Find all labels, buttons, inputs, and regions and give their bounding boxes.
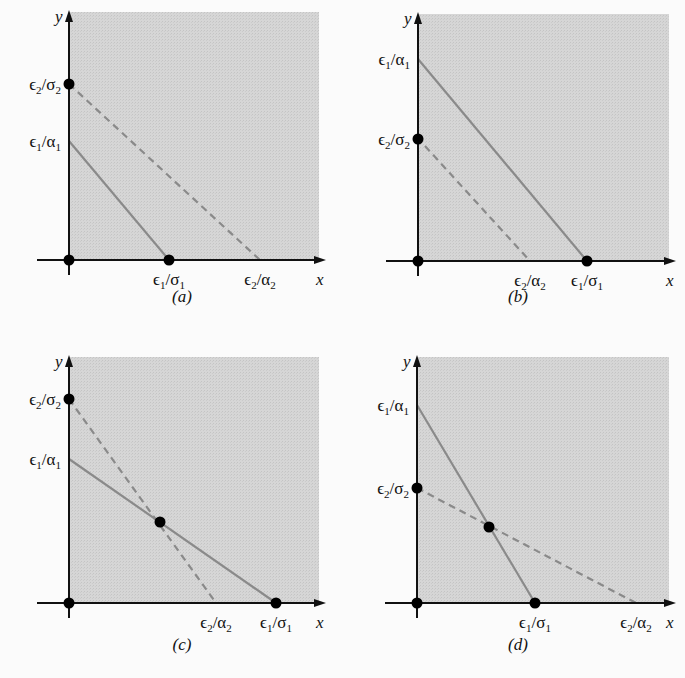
- x-axis-arrow-icon: [314, 599, 326, 607]
- x-axis-arrow-icon: [664, 257, 676, 265]
- x-intercept-label: ϵ2/α2: [244, 270, 276, 291]
- x-axis-arrow-icon: [664, 599, 676, 607]
- vertex-dot: [582, 256, 593, 267]
- x-intercept-label: ϵ1/σ1: [571, 271, 603, 292]
- origin-dot: [412, 598, 423, 609]
- origin-dot: [64, 598, 75, 609]
- panel-a: yxϵ2/σ2ϵ1/α1ϵ1/σ1ϵ2/α2(a): [29, 7, 326, 306]
- vertex-dot: [271, 598, 282, 609]
- y-intercept-label: ϵ2/σ2: [377, 479, 409, 500]
- x-axis-label: x: [315, 613, 324, 632]
- panel-d: yxϵ1/α1ϵ2/σ2ϵ1/σ1ϵ2/α2(d): [377, 352, 676, 654]
- x-axis-label: x: [315, 270, 324, 289]
- y-intercept-label: ϵ2/σ2: [29, 75, 61, 96]
- panel-b: yxϵ1/α1ϵ2/σ2ϵ2/α2ϵ1/σ1(b): [378, 9, 676, 306]
- shaded-region: [418, 357, 669, 603]
- x-intercept-label: ϵ2/α2: [200, 613, 232, 634]
- origin-dot: [413, 256, 424, 267]
- vertex-dot: [413, 134, 424, 145]
- x-axis-label: x: [665, 271, 674, 290]
- y-axis-label: y: [402, 9, 412, 28]
- y-axis-label: y: [401, 352, 411, 371]
- vertex-dot: [64, 79, 75, 90]
- panel-caption: (b): [508, 287, 528, 306]
- figure-canvas: yxϵ2/σ2ϵ1/α1ϵ1/σ1ϵ2/α2(a)yxϵ1/α1ϵ2/σ2ϵ2/…: [0, 0, 685, 678]
- panel-caption: (d): [508, 635, 528, 654]
- y-intercept-label: ϵ2/σ2: [378, 130, 410, 151]
- y-intercept-label: ϵ1/α1: [29, 132, 61, 153]
- shaded-region: [70, 357, 319, 603]
- panel-caption: (c): [173, 635, 192, 654]
- y-axis-label: y: [53, 7, 63, 26]
- x-intercept-label: ϵ1/σ1: [519, 613, 551, 634]
- panel-caption: (a): [172, 287, 192, 306]
- intersection-dot: [155, 517, 166, 528]
- panel-c: yxϵ2/σ2ϵ1/α1ϵ2/α2ϵ1/σ1(c): [29, 352, 326, 654]
- vertex-dot: [64, 394, 75, 405]
- y-intercept-label: ϵ2/σ2: [29, 390, 61, 411]
- vertex-dot: [412, 483, 423, 494]
- intersection-dot: [484, 522, 495, 533]
- y-intercept-label: ϵ1/α1: [378, 50, 410, 71]
- x-intercept-label: ϵ2/α2: [620, 613, 652, 634]
- y-intercept-label: ϵ1/α1: [29, 450, 61, 471]
- shaded-region: [70, 12, 319, 260]
- shaded-region: [419, 14, 669, 261]
- x-intercept-label: ϵ1/σ1: [260, 613, 292, 634]
- x-axis-arrow-icon: [314, 256, 326, 264]
- x-axis-label: x: [665, 613, 674, 632]
- y-intercept-label: ϵ1/α1: [377, 396, 409, 417]
- vertex-dot: [164, 255, 175, 266]
- y-axis-label: y: [53, 352, 63, 371]
- vertex-dot: [530, 598, 541, 609]
- origin-dot: [64, 255, 75, 266]
